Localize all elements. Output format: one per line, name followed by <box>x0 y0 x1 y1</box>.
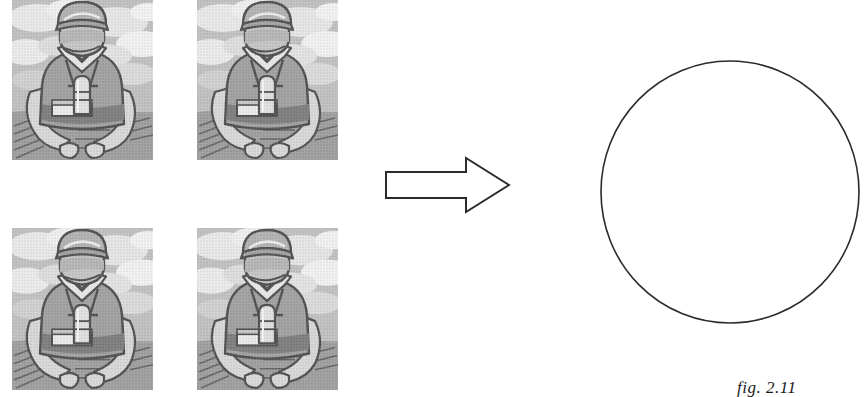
image-tile-bottom-right <box>197 228 338 390</box>
figure-canvas: fig. 2.11 <box>0 0 867 397</box>
image-tile-top-left <box>12 0 153 160</box>
worker-illustration-icon <box>12 228 153 390</box>
figure-caption: fig. 2.11 <box>737 378 796 397</box>
worker-illustration-icon <box>197 0 338 160</box>
arrow-shape <box>380 152 515 218</box>
circle-shape <box>598 58 864 328</box>
worker-illustration-icon <box>197 228 338 390</box>
worker-illustration-icon <box>12 0 153 160</box>
image-tile-top-right <box>197 0 338 160</box>
image-tile-bottom-left <box>12 228 153 390</box>
result-circle <box>598 58 864 328</box>
right-arrow-icon <box>380 152 515 218</box>
